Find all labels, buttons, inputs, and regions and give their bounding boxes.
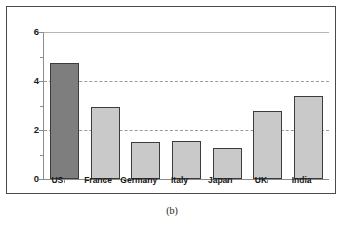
bar-slot	[207, 32, 248, 179]
bar-slot	[288, 32, 329, 179]
bar-slot	[125, 32, 166, 179]
figure-root: 0246 USFranceGermanyItalyJapanUKIndia (b…	[0, 0, 344, 231]
y-minor-tick-1	[40, 155, 43, 156]
bar-india[interactable]	[294, 96, 323, 179]
bar-uk[interactable]	[253, 111, 282, 179]
x-axis-label-uk: UK	[241, 176, 282, 185]
bar-france[interactable]	[91, 107, 120, 179]
y-tick-label: 6	[34, 27, 39, 37]
x-axis-label-france: France	[78, 176, 119, 185]
y-tick-label: 4	[34, 76, 39, 86]
bar-slot	[85, 32, 126, 179]
bar-slot	[248, 32, 289, 179]
bar-us[interactable]	[50, 63, 79, 179]
bar-slot	[166, 32, 207, 179]
x-axis-label-japan: Japan	[200, 176, 241, 185]
bar-italy[interactable]	[172, 141, 201, 179]
figure-caption: (b)	[0, 205, 344, 216]
x-axis-label-us: US	[37, 176, 78, 185]
y-minor-tick-5	[40, 57, 43, 58]
y-minor-tick-3	[40, 106, 43, 107]
y-tick-mark	[39, 32, 43, 33]
x-axis-labels: USFranceGermanyItalyJapanUKIndia	[37, 176, 322, 185]
plot-area: 0246	[43, 32, 329, 180]
x-axis-label-germany: Germany	[118, 176, 159, 185]
y-tick-mark	[39, 81, 43, 82]
bar-slot	[44, 32, 85, 179]
y-tick-label: 2	[34, 125, 39, 135]
x-axis-label-italy: Italy	[159, 176, 200, 185]
chart-frame: 0246	[6, 6, 336, 194]
bar-germany[interactable]	[131, 142, 160, 179]
x-axis-label-india: India	[281, 176, 322, 185]
bars-layer	[44, 32, 329, 179]
y-tick-mark	[39, 130, 43, 131]
